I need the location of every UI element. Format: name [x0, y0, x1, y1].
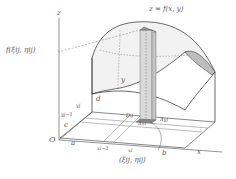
surface-right-curve [185, 72, 215, 110]
height-label: f(ξij, ηij) [6, 47, 35, 54]
y-tick-yj: yj [76, 103, 80, 108]
y-tick-c: c [64, 122, 68, 129]
y-tick-d: d [96, 96, 100, 103]
surface-front-curve [92, 91, 185, 110]
base-grid-line [114, 116, 140, 142]
origin-label: O [49, 136, 56, 144]
cell-label-Dij: Dij [126, 113, 133, 118]
x-tick-xi: xi [128, 148, 132, 153]
x-tick-xi-1: xi−1 [97, 146, 109, 151]
y-tick-yj-1: yj−1 [61, 112, 73, 117]
riemann-sum-volume-diagram: z z = f(x, y) f(ξij, ηij) y d yj yj−1 c … [0, 0, 236, 179]
domain-rectangle [60, 112, 215, 148]
x-axis-label: x [197, 149, 201, 156]
x-tick-b: b [162, 150, 166, 157]
cell-label-dx: Δxi [138, 121, 146, 126]
sample-point-label: (ξij, ηij) [119, 157, 146, 164]
surface-label: z = f(x, y) [149, 6, 183, 13]
y-axis-label: y [121, 77, 125, 84]
riemann-column-side [152, 32, 156, 120]
x-tick-a: a [71, 140, 75, 147]
cell-label-dy: Δyj [160, 117, 168, 122]
base-grid-line [104, 115, 130, 141]
z-axis-label: z [57, 10, 61, 17]
